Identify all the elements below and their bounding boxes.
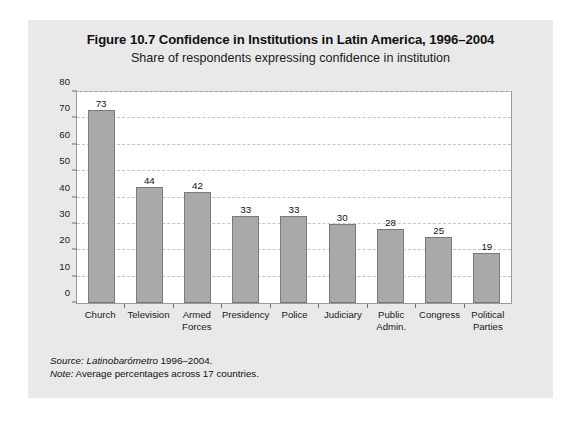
- x-tick-mark: [173, 304, 174, 308]
- x-axis-label: Television: [124, 309, 172, 332]
- bar-value-label: 33: [240, 204, 251, 215]
- y-tick-label: 70: [59, 102, 70, 113]
- title-block: Figure 10.7 Confidence in Institutions i…: [28, 32, 553, 65]
- footnotes: Source: Latinobarómetro 1996–2004. Note:…: [50, 354, 259, 381]
- bar[interactable]: 44: [136, 187, 163, 303]
- bar[interactable]: 19: [473, 253, 500, 303]
- bar-slot: 33: [222, 92, 270, 303]
- bar-value-label: 44: [144, 175, 155, 186]
- y-tick-label: 0: [65, 287, 70, 298]
- x-axis-label: Presidency: [221, 309, 270, 332]
- y-tick-label: 40: [59, 181, 70, 192]
- x-axis-labels: ChurchTelevisionArmedForcesPresidencyPol…: [76, 309, 512, 332]
- x-axis-label: Church: [76, 309, 124, 332]
- x-tick-mark: [464, 304, 465, 308]
- y-tick-label: 50: [59, 155, 70, 166]
- chart-subtitle: Share of respondents expressing confiden…: [28, 51, 553, 65]
- bar-slot: 25: [415, 92, 463, 303]
- y-tick-label: 20: [59, 234, 70, 245]
- bar-slot: 19: [463, 92, 511, 303]
- bar-value-label: 30: [337, 212, 348, 223]
- bar-value-label: 28: [385, 217, 396, 228]
- source-label: Source:: [50, 355, 84, 366]
- bar-value-label: 25: [433, 225, 444, 236]
- x-tick-mark: [318, 304, 319, 308]
- note-label: Note:: [50, 368, 73, 379]
- note-line: Note: Average percentages across 17 coun…: [50, 367, 259, 380]
- bar-value-label: 73: [96, 98, 107, 109]
- bar-slot: 28: [366, 92, 414, 303]
- x-tick-mark: [415, 304, 416, 308]
- x-axis-label: Judiciary: [319, 309, 367, 332]
- bar-value-label: 19: [481, 241, 492, 252]
- x-axis-label: PublicAdmin.: [367, 309, 415, 332]
- bar[interactable]: 42: [184, 192, 211, 303]
- bars-layer: 734442333330282519: [77, 92, 511, 303]
- source-line: Source: Latinobarómetro 1996–2004.: [50, 354, 259, 367]
- bar[interactable]: 28: [377, 229, 404, 303]
- bar-slot: 42: [173, 92, 221, 303]
- y-tick-label: 80: [59, 76, 70, 87]
- bar-slot: 44: [125, 92, 173, 303]
- bar[interactable]: 73: [88, 110, 115, 303]
- bar-slot: 73: [77, 92, 125, 303]
- source-years: 1996–2004.: [158, 355, 212, 366]
- x-axis-label: ArmedForces: [173, 309, 221, 332]
- x-axis-ticks: [76, 304, 512, 308]
- plot-inner: 01020304050607080 734442333330282519: [77, 92, 511, 303]
- x-tick-mark: [124, 304, 125, 308]
- x-tick-mark: [221, 304, 222, 308]
- x-axis-label: Police: [270, 309, 318, 332]
- chart-title: Figure 10.7 Confidence in Institutions i…: [28, 32, 553, 47]
- bar-slot: 30: [318, 92, 366, 303]
- x-tick-mark: [367, 304, 368, 308]
- y-tick-label: 60: [59, 128, 70, 139]
- bar[interactable]: 33: [280, 216, 307, 303]
- x-axis-label: PoliticalParties: [464, 309, 512, 332]
- y-tick-label: 10: [59, 260, 70, 271]
- bar-slot: 33: [270, 92, 318, 303]
- bar-value-label: 42: [192, 180, 203, 191]
- plot-area: 01020304050607080 734442333330282519: [76, 91, 512, 304]
- figure-panel: Figure 10.7 Confidence in Institutions i…: [28, 20, 553, 398]
- bar[interactable]: 25: [425, 237, 452, 303]
- x-tick-mark: [270, 304, 271, 308]
- source-publication: Latinobarómetro: [87, 355, 158, 366]
- note-text: Average percentages across 17 countries.: [73, 368, 259, 379]
- y-tick-label: 30: [59, 207, 70, 218]
- bar[interactable]: 33: [232, 216, 259, 303]
- bar-value-label: 33: [289, 204, 300, 215]
- bar[interactable]: 30: [329, 224, 356, 303]
- x-axis-label: Congress: [415, 309, 463, 332]
